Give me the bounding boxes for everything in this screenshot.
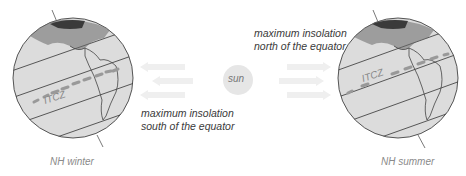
insolation-north-line1: maximum insolation <box>254 27 347 40</box>
insolation-south-line1: maximum insolation <box>141 107 234 120</box>
insolation-south-line2: south of the equator <box>141 120 234 133</box>
globe-nh-summer: ITCZ <box>330 10 466 150</box>
globe-nh-winter: ITCZ <box>0 10 140 150</box>
insolation-arrows-left <box>140 62 193 100</box>
insolation-north-line2: north of the equator <box>254 40 346 53</box>
caption-nh-winter: NH winter <box>50 156 94 167</box>
insolation-arrows-right <box>279 62 331 100</box>
diagram-canvas: ITCZ <box>0 0 466 176</box>
rotation-axis-south <box>97 135 103 147</box>
rotation-axis-south <box>418 135 425 148</box>
rotation-axis-north <box>373 10 378 22</box>
caption-nh-summer: NH summer <box>381 156 434 167</box>
sun-label: sun <box>228 73 244 84</box>
